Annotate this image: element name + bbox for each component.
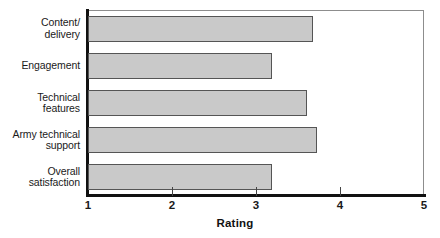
x-tick-mark [340,187,341,196]
x-tick-mark [172,187,173,196]
x-axis-title-text: Rating [217,217,254,229]
x-tick-label: 2 [157,199,187,211]
category-label-line: features [0,103,80,115]
category-label: Content/delivery [0,17,80,40]
x-axis-tick-labels: 12345 [0,199,440,219]
bar-chart: Content/deliveryEngagementTechnicalfeatu… [0,0,440,238]
x-axis-tick-marks [88,10,424,196]
x-tick-mark [256,187,257,196]
category-label-line: delivery [0,29,80,41]
x-tick-label: 3 [241,199,271,211]
x-tick-label: 4 [325,199,355,211]
x-tick-label: 1 [73,199,103,211]
category-label: Engagement [0,60,80,72]
category-label: Army technicalsupport [0,129,80,152]
category-label: Technicalfeatures [0,92,80,115]
x-axis-title: Rating [0,217,440,229]
category-label: Overallsatisfaction [0,166,80,189]
category-label-line: satisfaction [0,177,80,189]
category-axis-labels: Content/deliveryEngagementTechnicalfeatu… [0,10,84,196]
category-label-line: Content/ [0,17,80,29]
category-label-line: support [0,140,80,152]
category-label-line: Engagement [0,60,80,72]
x-tick-label: 5 [409,199,439,211]
